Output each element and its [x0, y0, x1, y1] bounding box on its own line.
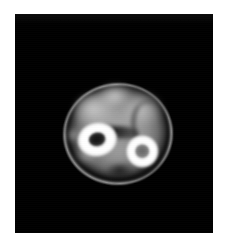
viewport-top-glare [15, 14, 213, 24]
medical-image-viewport[interactable] [15, 14, 213, 233]
scan-cross-section [59, 78, 178, 190]
page-root [0, 0, 229, 250]
